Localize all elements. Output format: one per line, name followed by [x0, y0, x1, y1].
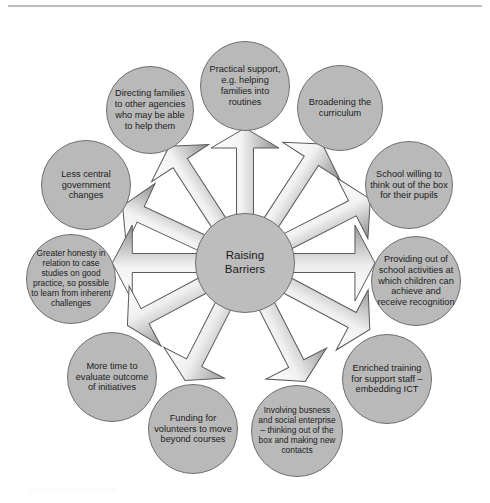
node-label-broadening-curriculum: Broadening the curriculum: [302, 97, 378, 119]
node-label-more-time-evaluate-outcome: More time to evaluate outcome of initiat…: [72, 361, 152, 394]
node-directing-families[interactable]: Directing families to other agencies who…: [106, 66, 194, 154]
node-greater-honesty-case-studies[interactable]: Greater honesty in relation to case stud…: [26, 234, 116, 324]
node-more-time-evaluate-outcome[interactable]: More time to evaluate outcome of initiat…: [67, 332, 157, 422]
node-less-central-government-changes[interactable]: Less central government changes: [41, 140, 131, 230]
node-enriched-training-support-staff[interactable]: Enriched training for support staff – em…: [342, 334, 432, 424]
node-label-less-central-government-changes: Less central government changes: [46, 169, 126, 202]
node-label-school-willing-think-out-of-box: School willing to think out of the box f…: [370, 169, 448, 202]
node-practical-support[interactable]: Practical support, e.g. helping families…: [200, 41, 290, 131]
node-label-greater-honesty-case-studies: Greater honesty in relation to case stud…: [31, 249, 111, 308]
diagram-page: RaisingBarriers Practical support, e.g. …: [0, 0, 490, 503]
hub-node-label: RaisingBarriers: [200, 249, 290, 276]
node-label-funding-for-volunteers: Funding for volunteers to move beyond co…: [153, 413, 233, 446]
node-label-enriched-training-support-staff: Enriched training for support staff – em…: [347, 363, 427, 396]
node-label-directing-families: Directing families to other agencies who…: [111, 88, 189, 131]
page-footer-mark: [30, 488, 116, 492]
node-school-willing-think-out-of-box[interactable]: School willing to think out of the box f…: [365, 141, 453, 229]
arrow-to-practical-support: [211, 128, 279, 215]
node-label-involving-business-social-enterprise: Involving busness and social enterprise …: [256, 406, 338, 456]
node-broadening-curriculum[interactable]: Broadening the curriculum: [297, 65, 383, 151]
node-label-practical-support: Practical support, e.g. helping families…: [205, 64, 285, 107]
node-involving-business-social-enterprise[interactable]: Involving busness and social enterprise …: [251, 385, 343, 477]
node-funding-for-volunteers[interactable]: Funding for volunteers to move beyond co…: [148, 384, 238, 474]
node-label-providing-out-of-school-activities: Providing out of school activities at wh…: [376, 254, 456, 308]
hub-node-raising-barriers[interactable]: RaisingBarriers: [195, 213, 295, 313]
node-providing-out-of-school-activities[interactable]: Providing out of school activities at wh…: [371, 236, 461, 326]
